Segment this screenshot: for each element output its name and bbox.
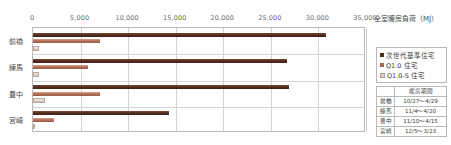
table-cell-city-練馬: 練馬 (377, 107, 395, 117)
bar-group-宮崎 (33, 107, 364, 133)
x-axis-tick-1: 5,000 (70, 14, 89, 22)
bar-前橋-series-3 (33, 46, 39, 51)
category-label-練馬: 練馬 (2, 62, 30, 72)
square-marker-dark (380, 53, 384, 57)
category-label-前橋: 前橋 (2, 36, 30, 46)
x-axis-tick-6: 30,000 (306, 14, 329, 22)
bar-chart: 05,00010,00015,00020,00025,00030,00035,0… (0, 0, 372, 145)
legend-label-1: 次世代基準住宅 (386, 50, 435, 60)
bar-練馬-series-3 (33, 72, 39, 77)
x-axis-tick-3: 15,000 (163, 14, 186, 22)
legend-item-2[interactable]: Q1.0 住宅 (380, 60, 443, 70)
bar-宮崎-series-1 (33, 111, 169, 115)
bar-前橋-series-1 (33, 33, 326, 37)
table-header-row: 暖房期間 (377, 87, 447, 97)
x-axis-title: 全室暖房負荷（MJ） (374, 13, 438, 23)
plot-area (32, 27, 365, 132)
bar-前橋-series-2 (33, 39, 100, 43)
table-row: 豊中11/10〜4/15 (377, 117, 447, 127)
category-label-豊中: 豊中 (2, 89, 30, 99)
legend-item-1[interactable]: 次世代基準住宅 (380, 50, 443, 60)
bar-group-豊中 (33, 81, 364, 107)
x-axis-tick-4: 20,000 (211, 14, 234, 22)
bar-練馬-series-1 (33, 59, 287, 63)
bar-宮崎-series-3 (33, 124, 35, 129)
table-cell-period-前橋: 10/27〜4/29 (395, 97, 447, 107)
table-cell-city-宮崎: 宮崎 (377, 127, 395, 137)
legend-label-2: Q1.0 住宅 (386, 60, 418, 70)
table-corner-cell (377, 87, 395, 97)
bar-宮崎-series-2 (33, 118, 54, 122)
square-marker-mid (380, 63, 384, 67)
table-row: 練馬11/4〜4/20 (377, 107, 447, 117)
table-row: 宮崎12/5〜3/23 (377, 127, 447, 137)
table-cell-period-宮崎: 12/5〜3/23 (395, 127, 447, 137)
table-header-period: 暖房期間 (395, 87, 447, 97)
x-axis-tick-labels: 05,00010,00015,00020,00025,00030,00035,0… (32, 14, 366, 25)
heating-period-table: 暖房期間 前橋10/27〜4/29練馬11/4〜4/20豊中11/10〜4/15… (376, 86, 447, 137)
table-cell-city-前橋: 前橋 (377, 97, 395, 107)
bar-豊中-series-1 (33, 85, 289, 89)
legend-item-3[interactable]: Q1.0-S 住宅 (380, 70, 443, 80)
table-row: 前橋10/27〜4/29 (377, 97, 447, 107)
bar-group-前橋 (33, 28, 364, 54)
table-cell-period-練馬: 11/4〜4/20 (395, 107, 447, 117)
table-cell-period-豊中: 11/10〜4/15 (395, 117, 447, 127)
bar-豊中-series-3 (33, 98, 45, 103)
x-axis-tick-2: 10,000 (115, 14, 138, 22)
table-cell-city-豊中: 豊中 (377, 117, 395, 127)
chart-screenshot: 05,00010,00015,00020,00025,00030,00035,0… (0, 0, 451, 145)
x-axis-tick-5: 25,000 (258, 14, 281, 22)
gridline-7 (366, 28, 367, 131)
legend-label-3: Q1.0-S 住宅 (387, 70, 425, 80)
bar-group-練馬 (33, 54, 364, 80)
category-label-宮崎: 宮崎 (2, 115, 30, 125)
x-axis-tick-0: 0 (30, 14, 34, 22)
chart-legend: 次世代基準住宅Q1.0 住宅Q1.0-S 住宅 (376, 47, 447, 83)
square-marker-light (380, 73, 385, 78)
bar-豊中-series-2 (33, 92, 100, 96)
bar-練馬-series-2 (33, 65, 88, 69)
